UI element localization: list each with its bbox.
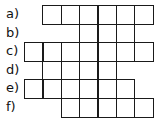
grid-cell[interactable]	[79, 98, 99, 118]
grid-cell[interactable]	[97, 98, 117, 118]
grid-cell[interactable]	[61, 98, 81, 118]
row-label: b)	[6, 26, 19, 40]
grid-cell[interactable]	[79, 79, 99, 99]
grid-cell[interactable]	[116, 42, 136, 62]
grid-cell[interactable]	[61, 61, 81, 81]
grid-cell[interactable]	[116, 79, 136, 99]
grid-cell[interactable]	[116, 5, 136, 25]
row-label: e)	[6, 81, 19, 95]
grid-cell[interactable]	[134, 5, 154, 25]
row-label: f)	[6, 100, 16, 114]
grid-cell[interactable]	[97, 5, 117, 25]
grid-cell[interactable]	[97, 24, 117, 44]
grid-cell[interactable]	[42, 79, 62, 99]
grid-cell[interactable]	[42, 61, 62, 81]
crossword-grid-puzzle: a)b)c)d)e)f)	[0, 0, 162, 127]
grid-cell[interactable]	[134, 98, 154, 118]
grid-cell[interactable]	[61, 5, 81, 25]
grid-cell[interactable]	[79, 24, 99, 44]
row-label: c)	[6, 44, 18, 58]
grid-cell[interactable]	[42, 5, 62, 25]
grid-cell[interactable]	[134, 42, 154, 62]
grid-cell[interactable]	[79, 61, 99, 81]
grid-cell[interactable]	[79, 42, 99, 62]
grid-cell[interactable]	[24, 79, 44, 99]
grid-cell[interactable]	[116, 98, 136, 118]
grid-cell[interactable]	[24, 42, 44, 62]
row-label: d)	[6, 63, 19, 77]
grid-cell[interactable]	[97, 61, 117, 81]
grid-cell[interactable]	[61, 79, 81, 99]
grid-cell[interactable]	[97, 42, 117, 62]
grid-cell[interactable]	[42, 42, 62, 62]
grid-cell[interactable]	[116, 24, 136, 44]
row-label: a)	[6, 7, 19, 21]
grid-cell[interactable]	[79, 5, 99, 25]
grid-cell[interactable]	[97, 79, 117, 99]
grid-cell[interactable]	[61, 42, 81, 62]
